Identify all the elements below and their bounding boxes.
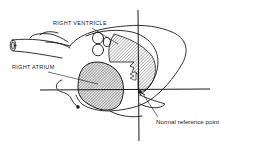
vertical-axis xyxy=(138,10,139,141)
heart-diagram: RIGHT VENTRICLE RIGHT ATRIUM Normal refe… xyxy=(0,0,254,146)
right-atrium-region xyxy=(78,62,123,110)
label-right-atrium: RIGHT ATRIUM xyxy=(12,64,55,70)
label-right-ventricle: RIGHT VENTRICLE xyxy=(53,20,107,26)
horizontal-axis xyxy=(40,89,210,90)
label-reference-point: Normal reference point xyxy=(156,118,219,125)
